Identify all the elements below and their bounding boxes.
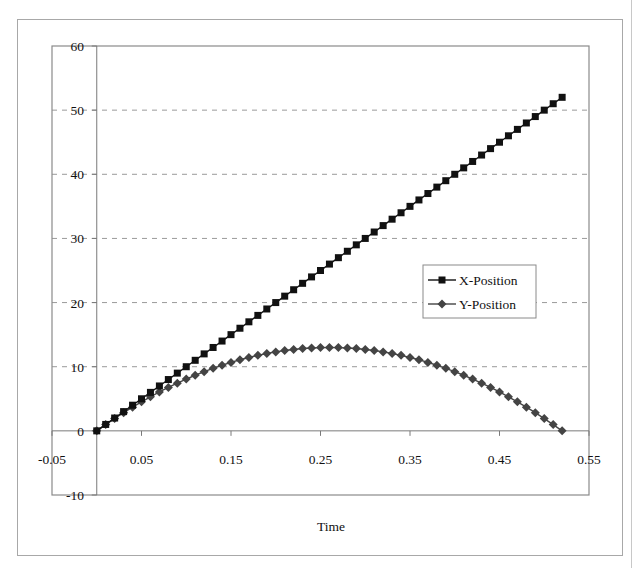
data-point xyxy=(325,343,334,352)
y-tick-label: 10 xyxy=(71,360,85,375)
x-tick-label: 0.45 xyxy=(488,452,512,467)
data-point xyxy=(486,383,495,392)
data-point xyxy=(147,389,154,396)
data-point xyxy=(362,235,369,242)
y-axis-tick-labels: 6050403020100-10 xyxy=(66,39,84,503)
data-point xyxy=(397,351,406,360)
data-point xyxy=(558,426,567,435)
data-point xyxy=(227,358,236,367)
data-point xyxy=(228,331,235,338)
data-point xyxy=(504,392,513,401)
x-tick-label: 0.05 xyxy=(130,452,154,467)
x-tick-label: -0.05 xyxy=(38,452,66,467)
data-point xyxy=(183,363,190,370)
data-point xyxy=(550,100,557,107)
y-tick-label: 0 xyxy=(77,424,84,439)
data-point xyxy=(478,152,485,159)
data-point xyxy=(344,248,351,255)
series-y-position xyxy=(92,343,566,435)
y-tick-label: -10 xyxy=(66,488,84,503)
data-point xyxy=(496,139,503,146)
data-point xyxy=(334,343,343,352)
x-tick-label: 0.25 xyxy=(309,452,333,467)
data-point xyxy=(460,164,467,171)
data-point xyxy=(531,408,540,417)
data-point xyxy=(280,346,289,355)
data-point xyxy=(433,184,440,191)
data-point xyxy=(532,113,539,120)
data-point xyxy=(335,254,342,261)
data-point xyxy=(353,241,360,248)
data-point xyxy=(307,343,316,352)
data-point xyxy=(164,383,173,392)
data-point xyxy=(209,364,218,373)
data-point xyxy=(93,427,100,434)
data-point xyxy=(219,338,226,345)
data-point xyxy=(281,293,288,300)
data-point xyxy=(352,344,361,353)
data-point xyxy=(235,355,244,364)
data-point xyxy=(138,395,145,402)
data-point xyxy=(191,371,200,380)
data-point xyxy=(370,346,379,355)
y-tick-label: 40 xyxy=(71,167,85,182)
data-point xyxy=(201,350,208,357)
data-point xyxy=(298,344,307,353)
data-point xyxy=(423,358,432,367)
x-tick-label: 0.55 xyxy=(577,452,601,467)
data-point xyxy=(156,382,163,389)
data-point xyxy=(174,370,181,377)
data-point xyxy=(477,379,486,388)
legend: X-PositionY-Position xyxy=(423,265,536,318)
data-point xyxy=(523,119,530,126)
data-point xyxy=(102,421,109,428)
data-point xyxy=(271,347,280,356)
data-point xyxy=(451,171,458,178)
data-point xyxy=(540,414,549,423)
data-point xyxy=(245,318,252,325)
data-point xyxy=(389,216,396,223)
data-point xyxy=(210,344,217,351)
data-point xyxy=(289,345,298,354)
data-point xyxy=(398,209,405,216)
y-tick-label: 20 xyxy=(71,296,85,311)
legend-marker-icon xyxy=(439,277,446,284)
data-point xyxy=(522,403,531,412)
data-point xyxy=(414,355,423,364)
data-point xyxy=(469,158,476,165)
data-point xyxy=(487,145,494,152)
data-point xyxy=(468,375,477,384)
data-point xyxy=(308,273,315,280)
data-point xyxy=(165,376,172,383)
y-tick-label: 60 xyxy=(71,39,85,54)
chart-svg: 6050403020100-10 -0.050.050.150.250.350.… xyxy=(0,0,634,568)
data-point xyxy=(459,371,468,380)
data-point xyxy=(432,361,441,370)
x-axis-tick-labels: -0.050.050.150.250.350.450.55 xyxy=(38,452,601,467)
x-axis-title: Time xyxy=(317,519,345,534)
data-point xyxy=(120,408,127,415)
data-point xyxy=(361,345,370,354)
data-point xyxy=(424,190,431,197)
data-point xyxy=(129,402,136,409)
data-point xyxy=(541,107,548,114)
data-point xyxy=(317,267,324,274)
data-point xyxy=(415,196,422,203)
data-point xyxy=(549,420,558,429)
data-point xyxy=(407,203,414,210)
data-point xyxy=(253,351,262,360)
data-point xyxy=(111,415,118,422)
data-point xyxy=(263,305,270,312)
data-point xyxy=(182,375,191,384)
data-point xyxy=(192,357,199,364)
legend-label: X-Position xyxy=(459,273,518,288)
series-x-position xyxy=(93,94,565,435)
data-point xyxy=(406,353,415,362)
data-point xyxy=(218,361,227,370)
data-point xyxy=(200,367,209,376)
data-point xyxy=(379,347,388,356)
data-point xyxy=(450,367,459,376)
data-point xyxy=(442,177,449,184)
x-tick-label: 0.35 xyxy=(398,452,422,467)
data-point xyxy=(559,94,566,101)
